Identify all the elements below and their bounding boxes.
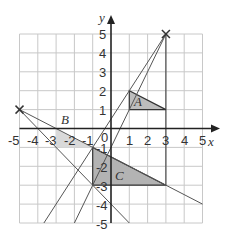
coordinate-diagram: y x -5 -4 -3 -2 -1 0 1 2 3 4 5 5 4 3 2 1… [0,0,231,244]
svg-text:-3: -3 [45,133,57,148]
shape-a-label: A [133,94,142,109]
y-axis-label: y [97,10,105,25]
svg-text:-4: -4 [96,198,108,213]
svg-text:4: 4 [99,46,106,61]
svg-text:-5: -5 [96,217,108,232]
axes [20,22,215,223]
svg-text:5: 5 [99,27,106,42]
svg-text:1: 1 [99,103,106,118]
x-axis-label: x [207,134,214,149]
svg-text:-3: -3 [96,179,108,194]
svg-text:1: 1 [126,133,133,148]
svg-text:2: 2 [99,84,106,99]
svg-text:-1: -1 [96,141,108,156]
shape-b-label: B [61,112,69,127]
svg-text:4: 4 [181,133,188,148]
svg-text:-2: -2 [64,133,76,148]
svg-text:2: 2 [144,133,151,148]
svg-text:-2: -2 [96,160,108,175]
svg-text:-5: -5 [8,133,20,148]
svg-text:-1: -1 [82,133,94,148]
svg-text:3: 3 [162,133,169,148]
svg-text:-4: -4 [27,133,39,148]
svg-text:3: 3 [99,65,106,80]
shape-c-label: C [115,168,124,183]
y-axis-arrow-icon [107,15,115,24]
x-axis-arrow-icon [211,125,220,133]
svg-text:5: 5 [199,133,206,148]
